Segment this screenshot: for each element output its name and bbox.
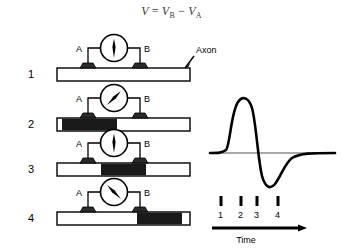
depolarized-region-3 bbox=[101, 164, 146, 176]
recording-trace: 1 2 3 4 Time bbox=[210, 98, 335, 245]
panel-1-number: 1 bbox=[28, 68, 34, 80]
electrode-a-label-1: A bbox=[76, 44, 82, 54]
time-tick-label-2: 2 bbox=[238, 210, 243, 220]
action-potential-waveform bbox=[210, 98, 335, 187]
time-tick-1 bbox=[220, 196, 223, 206]
panel-4: 4 A B bbox=[28, 179, 190, 226]
axon-label: Axon bbox=[196, 45, 217, 55]
electrode-a-label-4: A bbox=[76, 188, 82, 198]
panel-2-number: 2 bbox=[28, 118, 34, 130]
time-tick-label-4: 4 bbox=[275, 210, 280, 220]
axon-pointer-line bbox=[185, 56, 194, 68]
time-tick-label-1: 1 bbox=[218, 210, 223, 220]
panel-1: 1 A B Axon bbox=[28, 35, 217, 82]
time-tick-3 bbox=[256, 196, 259, 206]
diagram-canvas: 1 A B Axon 2 bbox=[0, 0, 343, 251]
electrode-a-foot-4 bbox=[80, 207, 96, 212]
depolarized-region-4 bbox=[137, 213, 182, 225]
electrode-b-label-1: B bbox=[144, 44, 150, 54]
figure-root: V = VB − VA 1 A B Axon bbox=[0, 0, 343, 251]
electrode-b-label-2: B bbox=[144, 94, 150, 104]
electrode-b-label-4: B bbox=[144, 188, 150, 198]
electrode-b-foot-3 bbox=[132, 158, 148, 163]
depolarized-region-2 bbox=[62, 119, 117, 131]
electrode-b-foot-1 bbox=[132, 63, 148, 68]
panel-2: 2 A B bbox=[28, 85, 190, 132]
electrode-a-foot-3 bbox=[80, 158, 96, 163]
panel-4-number: 4 bbox=[28, 212, 34, 224]
time-axis-arrowhead bbox=[298, 224, 307, 231]
electrode-a-label-2: A bbox=[76, 94, 82, 104]
electrode-a-label-3: A bbox=[76, 139, 82, 149]
time-tick-4 bbox=[277, 196, 280, 206]
electrode-a-foot-2 bbox=[80, 113, 96, 118]
time-tick-2 bbox=[240, 196, 243, 206]
time-tick-label-3: 3 bbox=[254, 210, 259, 220]
electrode-b-foot-4 bbox=[132, 207, 148, 212]
electrode-b-label-3: B bbox=[144, 139, 150, 149]
panel-3-number: 3 bbox=[28, 163, 34, 175]
time-axis-label: Time bbox=[236, 235, 256, 245]
panel-3: 3 A B bbox=[28, 130, 190, 177]
axon-bar-1 bbox=[57, 68, 190, 81]
electrode-b-foot-2 bbox=[132, 113, 148, 118]
electrode-a-foot-1 bbox=[80, 63, 96, 68]
